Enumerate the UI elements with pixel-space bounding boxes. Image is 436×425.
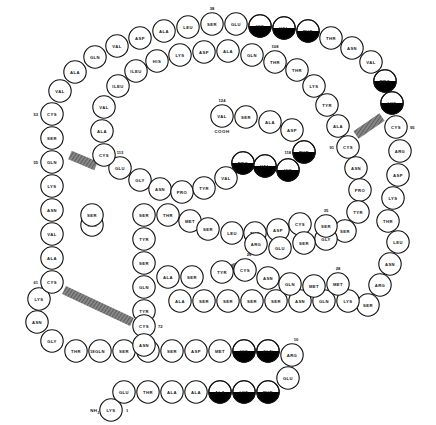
residue-gly[interactable]: GLY — [129, 169, 151, 191]
residue-asn[interactable]: ASN — [41, 199, 63, 221]
residue-ala[interactable]: ALA — [161, 381, 183, 403]
residue-cys[interactable]: CYS — [289, 213, 311, 235]
residue-ser[interactable]: SER — [357, 294, 379, 316]
residue-his[interactable]: HIS — [249, 15, 271, 37]
residue-asn[interactable]: ASN — [379, 253, 401, 275]
residue-gly[interactable]: GLY — [41, 330, 63, 352]
residue-val[interactable]: VAL — [106, 35, 128, 57]
residue-ser[interactable]: SER — [181, 266, 203, 288]
residue-asn[interactable]: ASN — [341, 37, 363, 59]
residue-tyr[interactable]: TYR — [133, 228, 155, 250]
residue-asp[interactable]: ASP — [129, 27, 151, 49]
residue-asp[interactable]: ASP — [193, 41, 215, 63]
residue-lys[interactable]: LYS — [41, 175, 63, 197]
residue-ala[interactable]: ALA — [153, 20, 175, 42]
residue-arg[interactable]: ARG — [369, 274, 391, 296]
residue-arg[interactable]: ARG — [245, 233, 267, 255]
residue-asn[interactable]: ASN — [257, 267, 279, 289]
residue-ala[interactable]: ALA — [209, 381, 231, 403]
residue-val[interactable]: VAL — [49, 80, 71, 102]
residue-ser[interactable]: SER — [197, 218, 219, 240]
residue-ala[interactable]: ALA — [41, 247, 63, 269]
residue-thr[interactable]: THR — [157, 204, 179, 226]
residue-cys[interactable]: CYS — [93, 144, 115, 166]
residue-ser[interactable]: SER — [133, 252, 155, 274]
residue-glu[interactable]: GLU — [277, 367, 299, 389]
residue-ser[interactable]: SER — [161, 340, 183, 362]
residue-glu[interactable]: GLU — [113, 381, 135, 403]
residue-ala[interactable]: ALA — [169, 290, 191, 312]
residue-ser[interactable]: SER — [235, 106, 257, 128]
residue-ser[interactable]: SER — [217, 290, 239, 312]
residue-ala[interactable]: ALA — [157, 266, 179, 288]
residue-lys[interactable]: LYS — [169, 44, 191, 66]
residue-pro[interactable]: PRO — [349, 179, 371, 201]
residue-ala[interactable]: ALA — [259, 111, 281, 133]
residue-pro[interactable]: PRO — [374, 70, 396, 92]
residue-lys[interactable]: LYS — [381, 92, 403, 114]
residue-ala[interactable]: ALA — [217, 40, 239, 62]
residue-gln[interactable]: GLN — [84, 46, 106, 68]
residue-his[interactable]: HIS — [277, 159, 299, 181]
residue-thr-108[interactable]: THR108 — [264, 44, 286, 73]
residue-cys-95[interactable]: CYS95 — [385, 116, 415, 138]
residue-phe[interactable]: PHE — [257, 381, 279, 403]
residue-ala[interactable]: ALA — [327, 115, 349, 137]
residue-ser[interactable]: SER — [293, 232, 315, 254]
residue-cys-72[interactable]: CYS72 — [133, 315, 163, 337]
residue-lys[interactable]: LYS — [233, 381, 255, 403]
residue-his[interactable]: HIS — [146, 50, 168, 72]
residue-val-124[interactable]: VAL124 — [211, 98, 233, 127]
residue-leu[interactable]: LEU — [387, 231, 409, 253]
residue-his[interactable]: HIS — [233, 340, 255, 362]
residue-gln[interactable]: GLN — [257, 340, 279, 362]
residue-tyr[interactable]: TYR — [193, 177, 215, 199]
residue-cys-26[interactable]: CYS26 — [234, 252, 256, 281]
residue-asp[interactable]: ASP — [281, 119, 303, 141]
residue-ala[interactable]: ALA — [91, 120, 113, 142]
residue-thr-18[interactable]: THR18 — [65, 340, 95, 362]
residue-ala[interactable]: ALA — [185, 381, 207, 403]
residue-ileu[interactable]: ILEU — [107, 75, 129, 97]
residue-gln[interactable]: GLN — [133, 276, 155, 298]
residue-lys[interactable]: LYS — [382, 187, 404, 209]
residue-arg-10[interactable]: ARG10 — [281, 337, 303, 366]
residue-tyr[interactable]: TYR — [211, 261, 233, 283]
residue-phe[interactable]: PHE — [297, 20, 319, 42]
residue-gln[interactable]: GLN — [279, 273, 301, 295]
residue-ala[interactable]: ALA — [64, 61, 86, 83]
residue-asn[interactable]: ASN — [345, 157, 367, 179]
residue-ileu[interactable]: ILEU — [125, 60, 147, 82]
residue-ser[interactable]: SER — [241, 290, 263, 312]
residue-cys-91[interactable]: CYS91 — [330, 136, 360, 158]
residue-ser[interactable]: SER — [193, 290, 215, 312]
residue-ser[interactable]: SER — [41, 127, 63, 149]
residue-met[interactable]: MET — [303, 275, 325, 297]
residue-glu[interactable]: GLU — [269, 237, 291, 259]
residue-ser-38[interactable]: SER38 — [201, 6, 223, 35]
residue-ser[interactable]: SER — [81, 204, 103, 226]
residue-ser[interactable]: SER — [113, 340, 135, 362]
residue-val[interactable]: VAL — [41, 223, 63, 245]
residue-leu[interactable]: LEU — [221, 222, 243, 244]
residue-met[interactable]: MET — [209, 340, 231, 362]
residue-cys-53[interactable]: CYS53 — [34, 103, 64, 125]
residue-thr[interactable]: THR — [286, 59, 308, 81]
residue-arg[interactable]: ARG — [389, 140, 411, 162]
residue-val[interactable]: VAL — [273, 17, 295, 39]
residue-asn[interactable]: ASN — [133, 334, 155, 356]
residue-tyr[interactable]: TYR — [347, 201, 369, 223]
residue-ser[interactable]: SER — [133, 204, 155, 226]
residue-met-28[interactable]: MET28 — [327, 266, 349, 295]
residue-thr[interactable]: THR — [320, 27, 342, 49]
residue-val[interactable]: VAL — [93, 96, 115, 118]
residue-tyr[interactable]: TYR — [316, 94, 338, 116]
residue-val[interactable]: VAL — [254, 155, 276, 177]
residue-pro[interactable]: PRO — [171, 181, 193, 203]
residue-pro[interactable]: PRO — [232, 152, 254, 174]
residue-gln-55[interactable]: GLN55 — [34, 151, 64, 173]
residue-thr[interactable]: THR — [377, 210, 399, 232]
residue-asp[interactable]: ASP — [185, 340, 207, 362]
residue-thr[interactable]: THR — [137, 381, 159, 403]
residue-lys[interactable]: LYS — [303, 75, 325, 97]
